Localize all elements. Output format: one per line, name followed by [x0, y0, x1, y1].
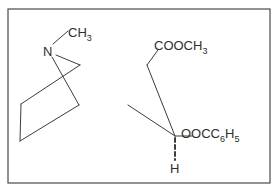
bond-n-bridgehead-upper	[56, 55, 80, 65]
methyl-ester-label: COOCH3	[154, 38, 207, 56]
benzoate-ester-label: OOCC6H5	[181, 126, 239, 144]
structure-svg: N CH3 COOCH3 OOCC6H5 H	[0, 0, 280, 193]
bond-a-c7	[21, 65, 80, 104]
bond-c7-c6	[20, 104, 21, 141]
chemical-structure-diagram: N CH3 COOCH3 OOCC6H5 H	[0, 0, 280, 193]
diagram-frame	[8, 9, 270, 183]
nitrogen-label: N	[43, 44, 52, 59]
bond-n-methyl	[53, 31, 68, 44]
bond-c6-b	[20, 105, 79, 141]
bond-c4-c3	[128, 105, 175, 136]
n-methyl-label: CH3	[68, 25, 92, 43]
hydrogen-label: H	[170, 161, 179, 176]
bond-c2-c3	[147, 65, 175, 136]
